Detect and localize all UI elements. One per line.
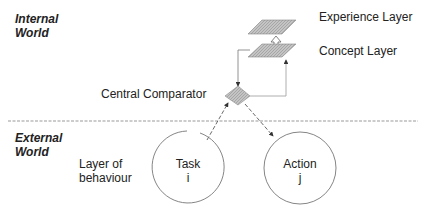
central-comparator-label: Central Comparator [101, 87, 206, 101]
internal-word: Internal [15, 12, 58, 26]
comparator-to-concept-line [250, 60, 286, 96]
concept-to-comparator-line [238, 50, 250, 86]
concept-layer-plane [248, 44, 296, 57]
external-world-label: External World [15, 131, 62, 159]
experience-layer-label: Experience Layer [319, 10, 412, 24]
layer-of-behaviour-label: Layer of behaviour [79, 157, 132, 185]
action-label: Action j [272, 157, 328, 185]
experience-layer-plane [248, 20, 296, 34]
comparator-to-action-arrow [245, 104, 273, 136]
internal-world-label: Internal World [15, 12, 58, 40]
action-index: j [272, 171, 328, 185]
behaviour-line-2: behaviour [79, 171, 132, 185]
behaviour-line-1: Layer of [79, 157, 132, 171]
world-word: World [15, 26, 58, 40]
external-word: External [15, 131, 62, 145]
task-label: Task i [160, 157, 216, 185]
task-index: i [160, 171, 216, 185]
task-title: Task [160, 157, 216, 171]
central-comparator-diamond [225, 86, 250, 105]
action-title: Action [272, 157, 328, 171]
concept-layer-label: Concept Layer [319, 44, 397, 58]
world-word: World [15, 145, 62, 159]
